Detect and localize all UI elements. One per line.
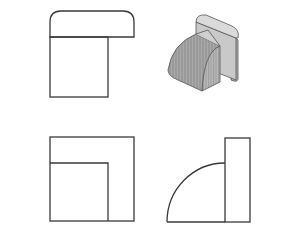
inner-square (50, 163, 108, 221)
body-rectangle (50, 37, 108, 97)
view-top-left (0, 0, 148, 119)
top-left-view-drawing (0, 0, 148, 119)
figure-caption (40, 229, 270, 238)
view-bottom-right (148, 119, 296, 238)
bottom-left-view-drawing (0, 119, 148, 238)
bottom-right-view-drawing (148, 119, 296, 238)
rounded-cap-outline (50, 11, 134, 37)
tall-rectangle (225, 138, 250, 222)
outer-square (50, 137, 134, 221)
isometric-drawing (148, 0, 296, 119)
quarter-circle-arc (167, 163, 225, 222)
view-bottom-left (0, 119, 148, 238)
view-isometric (148, 0, 296, 119)
